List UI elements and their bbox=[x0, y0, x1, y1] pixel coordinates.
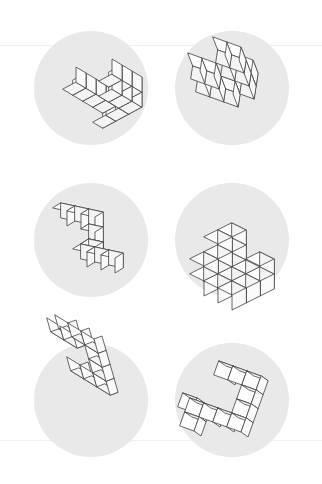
polycube-figure bbox=[175, 183, 289, 297]
figure-panel[interactable] bbox=[175, 343, 289, 457]
polycube-figure bbox=[175, 343, 289, 457]
figure-panel[interactable] bbox=[34, 343, 148, 457]
polycube-figure bbox=[34, 31, 148, 145]
figure-sheet bbox=[0, 0, 322, 484]
polycube-figure bbox=[34, 343, 148, 457]
polycube-figure bbox=[175, 31, 289, 145]
figure-panel[interactable] bbox=[34, 183, 148, 297]
figure-panel[interactable] bbox=[175, 183, 289, 297]
figure-panel[interactable] bbox=[175, 31, 289, 145]
figure-panel[interactable] bbox=[34, 31, 148, 145]
polycube-figure bbox=[34, 183, 148, 297]
